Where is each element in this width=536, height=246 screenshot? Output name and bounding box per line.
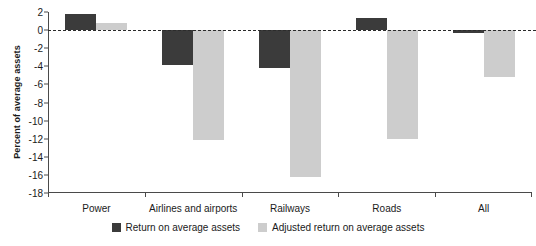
bar-chart: Percent of average assets 20-2-4-6-8-10-… (0, 0, 536, 246)
bar (484, 30, 515, 77)
y-tick-label: -14 (29, 151, 43, 162)
x-axis-label: Roads (372, 203, 401, 214)
legend-swatch-icon (112, 223, 121, 232)
legend-item: Adjusted return on average assets (258, 222, 424, 233)
bar (65, 14, 96, 30)
y-tick-mark (44, 138, 48, 139)
legend-label: Return on average assets (126, 222, 241, 233)
y-tick-label: -4 (34, 61, 43, 72)
bar (356, 18, 387, 30)
x-axis-line (48, 192, 532, 193)
x-axis-label: Railways (270, 203, 310, 214)
y-tick-mark (44, 66, 48, 67)
y-tick-label: -12 (29, 133, 43, 144)
y-axis-line (48, 12, 49, 193)
y-tick-mark (44, 174, 48, 175)
x-axis-label: Airlines and airports (149, 203, 237, 214)
y-axis-title: Percent of average assets (12, 22, 22, 182)
x-axis-label: All (478, 203, 489, 214)
y-tick-mark (44, 102, 48, 103)
y-tick-mark (44, 12, 48, 13)
y-tick-label: -18 (29, 188, 43, 199)
chart-legend: Return on average assetsAdjusted return … (0, 222, 536, 233)
x-axis-category-labels: PowerAirlines and airportsRailwaysRoadsA… (48, 195, 532, 217)
y-tick-label: -8 (34, 97, 43, 108)
bar (290, 30, 321, 177)
zero-reference-line (48, 30, 536, 31)
y-tick-label: 0 (37, 25, 43, 36)
y-tick-mark (44, 48, 48, 49)
y-tick-label: -2 (34, 43, 43, 54)
legend-item: Return on average assets (112, 222, 241, 233)
plot-area: 20-2-4-6-8-10-12-14-16-18 (48, 12, 532, 193)
bar (96, 23, 127, 30)
y-tick-label: -6 (34, 79, 43, 90)
bar (193, 30, 224, 140)
bar (259, 30, 290, 68)
y-tick-mark (44, 120, 48, 121)
bar (162, 30, 193, 65)
bar (387, 30, 418, 139)
legend-swatch-icon (258, 223, 267, 232)
legend-label: Adjusted return on average assets (272, 222, 424, 233)
y-tick-mark (44, 84, 48, 85)
y-tick-label: 2 (37, 7, 43, 18)
y-tick-label: -16 (29, 169, 43, 180)
y-tick-mark (44, 156, 48, 157)
x-axis-label: Power (82, 203, 110, 214)
y-tick-label: -10 (29, 115, 43, 126)
